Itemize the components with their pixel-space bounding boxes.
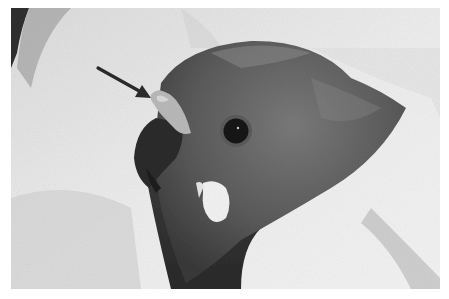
eye — [224, 119, 249, 144]
parrot-photo-illustration — [11, 8, 440, 289]
towel-fold — [11, 190, 141, 289]
photo — [11, 8, 440, 289]
